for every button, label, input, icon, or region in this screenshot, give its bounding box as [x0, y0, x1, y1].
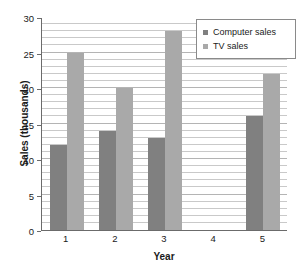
bar-chart: Sales (thousands) 051015202530 12345 Yea… [0, 0, 307, 274]
legend-swatch-icon [203, 30, 208, 35]
bar [148, 138, 165, 230]
legend-label: Computer sales [213, 28, 276, 37]
bar [263, 74, 280, 230]
x-axis-tick-labels: 12345 [41, 233, 287, 249]
legend-item: Computer sales [203, 25, 291, 39]
x-axis-title: Year [41, 251, 287, 262]
bar-group [148, 18, 182, 230]
y-axis-tick-label: 5 [29, 190, 34, 201]
legend-item: TV sales [203, 39, 291, 53]
y-axis-tick-label: 20 [23, 84, 34, 95]
bar-group [50, 18, 84, 230]
x-axis-tick-label: 4 [211, 233, 216, 244]
x-axis-tick-label: 5 [260, 233, 265, 244]
bar [50, 145, 67, 230]
bar [116, 88, 133, 230]
legend-label: TV sales [213, 42, 248, 51]
y-axis-tick [37, 231, 41, 232]
x-axis-tick-label: 1 [63, 233, 68, 244]
y-axis-tick-label: 15 [23, 119, 34, 130]
y-axis-tick-label: 0 [29, 226, 34, 237]
bar [165, 31, 182, 230]
x-axis-tick-label: 2 [112, 233, 117, 244]
bar-group [99, 18, 133, 230]
x-axis-tick-label: 3 [161, 233, 166, 244]
legend-swatch-icon [203, 44, 208, 49]
chart-legend: Computer salesTV sales [196, 19, 296, 59]
y-axis-tick-label: 10 [23, 155, 34, 166]
y-axis-tick-label: 30 [23, 13, 34, 24]
y-axis-tick-labels: 051015202530 [14, 18, 34, 231]
y-axis-tick-label: 25 [23, 48, 34, 59]
bar [99, 131, 116, 230]
bar [67, 53, 84, 231]
bar [246, 116, 263, 230]
